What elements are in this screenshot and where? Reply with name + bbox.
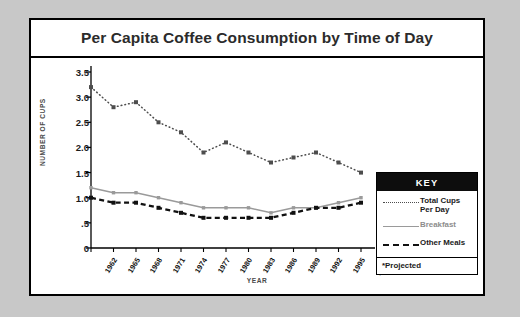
data-point-marker (112, 105, 116, 109)
data-point-marker (89, 196, 93, 200)
x-tick-label: 1992 (328, 256, 344, 275)
data-point-marker (337, 206, 341, 210)
x-tick-label: 1974 (193, 256, 209, 275)
page-title: Per Capita Coffee Consumption by Time of… (81, 29, 433, 47)
data-point-marker (359, 171, 363, 175)
plot-area: NUMBER OF CUPS 3.53.02.52.01.51.0.50 196… (31, 58, 483, 294)
legend-body: Total CupsPer DayBreakfastOther Meals (377, 191, 477, 257)
data-point-marker (179, 201, 182, 204)
y-tick-label: 0 (84, 243, 89, 254)
legend-footnote: *Projected (377, 257, 477, 275)
x-tick-label: 1983 (260, 256, 276, 275)
data-point-marker (134, 100, 138, 104)
x-tick-label: 1968 (148, 256, 164, 275)
legend-label: Total CupsPer Day (420, 196, 460, 215)
chart-panel: Per Capita Coffee Consumption by Time of… (29, 18, 485, 296)
data-point-marker (89, 85, 93, 89)
data-point-marker (314, 151, 318, 155)
data-point-marker (292, 206, 295, 209)
x-tick-label: 1977 (215, 256, 231, 275)
data-point-marker (202, 206, 205, 209)
data-point-marker (247, 206, 250, 209)
data-point-marker (337, 201, 340, 204)
data-point-marker (292, 156, 296, 160)
y-tick-label: .5 (81, 217, 89, 228)
data-point-marker (224, 206, 227, 209)
y-axis-title: NUMBER OF CUPS (39, 98, 46, 166)
y-tick-label: 1.0 (76, 192, 89, 203)
data-point-marker (269, 216, 273, 220)
x-tick-label: 1989 (305, 256, 321, 275)
data-point-marker (134, 191, 137, 194)
data-point-marker (157, 120, 161, 124)
legend-swatch-solid (382, 220, 420, 233)
data-point-marker (157, 206, 161, 210)
data-point-marker (292, 211, 296, 215)
legend-item: Breakfast (382, 220, 471, 233)
data-point-marker (179, 211, 183, 215)
data-point-marker (157, 196, 160, 199)
legend-label: Other Meals (420, 238, 465, 248)
x-tick-label: 1995 (350, 256, 366, 275)
x-tick-label: 1965 (125, 256, 141, 275)
x-tick-label: 1986 (283, 256, 299, 275)
x-tick-label: 1980 (238, 256, 254, 275)
x-tick-label: 1962 (103, 256, 119, 275)
legend-key: KEY Total CupsPer DayBreakfastOther Meal… (376, 172, 478, 275)
data-point-marker (269, 211, 272, 214)
y-tick-label: 3.0 (76, 92, 89, 103)
data-point-marker (314, 206, 318, 210)
legend-item: Other Meals (382, 238, 471, 251)
x-tick-label: 1971 (170, 256, 186, 275)
legend-label: Breakfast (420, 220, 456, 230)
legend-swatch-dashed (382, 238, 420, 251)
data-point-marker (247, 151, 251, 155)
legend-swatch-dotted (382, 196, 420, 209)
data-point-marker (202, 216, 206, 220)
data-point-marker (359, 201, 363, 205)
data-point-marker (247, 216, 251, 220)
series-line (91, 87, 361, 173)
x-axis-title: YEAR (31, 277, 483, 284)
legend-item: Total CupsPer Day (382, 196, 471, 215)
y-tick-label: 1.5 (76, 167, 89, 178)
y-tick-label: 2.5 (76, 117, 89, 128)
data-point-marker (359, 196, 362, 199)
data-point-marker (337, 161, 341, 165)
title-bar: Per Capita Coffee Consumption by Time of… (31, 20, 483, 58)
data-point-marker (112, 191, 115, 194)
y-tick-label: 3.5 (76, 67, 89, 78)
legend-header: KEY (377, 173, 477, 191)
data-point-marker (179, 130, 183, 134)
data-point-marker (89, 186, 92, 189)
data-point-marker (202, 151, 206, 155)
y-tick-label: 2.0 (76, 142, 89, 153)
data-point-marker (224, 140, 228, 144)
data-point-marker (269, 161, 273, 165)
data-point-marker (112, 201, 116, 205)
data-point-marker (134, 201, 138, 205)
data-point-marker (224, 216, 228, 220)
